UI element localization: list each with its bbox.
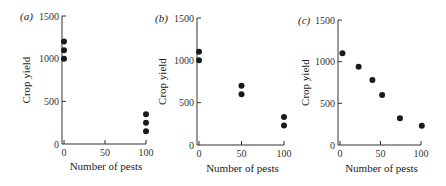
x-tick-label: 0 [338,148,343,159]
y-tick-label: 1500 [174,13,194,24]
data-point [196,57,202,63]
data-point [356,64,362,70]
data-point [61,39,67,45]
y-axis-title: Crop yield [299,59,311,106]
y-tick-label: 1000 [39,53,59,64]
panel-label: (c) [298,14,311,27]
x-tick-label: 100 [277,148,292,159]
data-point [281,123,287,129]
panel-label: (a) [20,10,33,23]
data-point [339,50,345,56]
data-point [143,128,149,134]
y-tick-label: 500 [320,98,335,109]
x-axis-title: Number of pests [206,162,279,174]
data-point [397,115,403,121]
chart-panel-b: 050010001500050100Number of pestsCrop yi… [155,12,292,174]
y-tick-label: 500 [179,97,194,108]
chart-panel-a: 050010001500050100Number of pestsCrop yi… [20,10,154,172]
x-tick-label: 0 [62,147,67,158]
y-tick-label: 1000 [174,55,194,66]
data-point [379,92,385,98]
x-tick-label: 50 [237,148,247,159]
y-tick-label: 1500 [39,11,59,22]
x-tick-label: 50 [376,148,386,159]
data-point [419,123,425,129]
figure: 050010001500050100Number of pestsCrop yi… [0,0,446,186]
x-tick-label: 50 [100,147,110,158]
x-axis-title: Number of pests [345,162,418,174]
data-point [143,120,149,126]
y-axis-title: Crop yield [156,58,168,105]
data-point [281,114,287,120]
y-tick-label: 0 [54,139,59,150]
data-point [369,77,375,83]
data-point [239,83,245,89]
chart-panel-c: 050010001500050100Number of pestsCrop yi… [298,14,429,174]
y-tick-label: 1000 [315,56,335,67]
x-tick-label: 100 [139,147,154,158]
y-tick-label: 500 [44,96,59,107]
x-axis-title: Number of pests [70,160,143,172]
x-tick-label: 0 [197,148,202,159]
data-point [143,111,149,117]
y-tick-label: 0 [189,140,194,151]
data-point [239,91,245,97]
data-point [61,56,67,62]
x-tick-label: 100 [414,148,429,159]
data-point [61,47,67,53]
y-axis-title: Crop yield [20,56,32,103]
panel-label: (b) [155,12,168,25]
y-tick-label: 1500 [315,15,335,26]
y-tick-label: 0 [330,140,335,151]
data-point [196,49,202,55]
